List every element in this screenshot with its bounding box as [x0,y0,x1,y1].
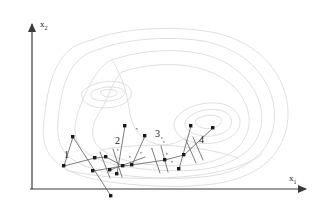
small-data-point [163,141,165,143]
cluster-label-4: 4 [199,134,204,145]
data-point [115,172,118,175]
cluster-label-1: 1 [64,149,69,160]
contour-level-3 [75,51,262,171]
x-axis-label-subscript: 1 [294,179,297,185]
data-point [123,124,126,127]
data-point [182,153,185,156]
cluster-label-2: 2 [115,135,120,146]
data-point [104,155,107,158]
data-point [109,194,112,197]
data-point [143,134,146,137]
small-data-point [140,152,142,154]
contour-plot-canvas: x1 x2 1 2 3 4 [0,0,324,209]
data-point [177,167,180,170]
data-point [121,164,124,167]
small-data-point [136,128,138,130]
contour-level-2 [58,38,275,178]
data-point [211,126,214,129]
small-data-point [129,156,131,158]
data-point [93,156,96,159]
small-data-point [161,137,163,139]
small-data-point [151,148,153,150]
small-data-point [171,161,173,163]
data-point [108,168,111,171]
contour-right-peak-outer [174,103,240,144]
data-point [130,163,133,166]
contour-plot-figure: x1 x2 1 2 3 4 [0,0,324,209]
y-axis-label: x2 [40,19,48,31]
small-data-point [166,153,168,155]
small-data-point [117,149,119,151]
contour-level-4 [93,65,250,166]
data-point [62,164,65,167]
contour-right-peak-inner [196,115,222,128]
y-axis-label-subscript: 2 [45,25,48,31]
trajectory-lines-group [64,126,213,196]
cluster-label-3: 3 [155,128,160,139]
data-point [163,158,166,161]
data-point [91,169,94,172]
x-axis-label: x1 [289,173,297,185]
data-point [71,135,74,138]
data-point [189,124,192,127]
contour-left-peak-mid [91,87,124,101]
